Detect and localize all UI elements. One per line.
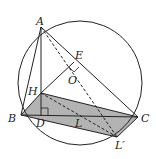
label-lprime: L′ bbox=[114, 139, 125, 152]
label-o: O bbox=[68, 74, 77, 87]
label-d: D bbox=[35, 117, 45, 130]
label-a: A bbox=[35, 15, 44, 28]
label-h: H bbox=[27, 85, 38, 98]
geometry-diagram: A B C D E H O L L′ bbox=[0, 0, 156, 159]
label-c: C bbox=[141, 112, 150, 125]
label-e: E bbox=[74, 49, 83, 62]
label-l: L bbox=[74, 117, 82, 130]
label-b: B bbox=[7, 112, 16, 125]
